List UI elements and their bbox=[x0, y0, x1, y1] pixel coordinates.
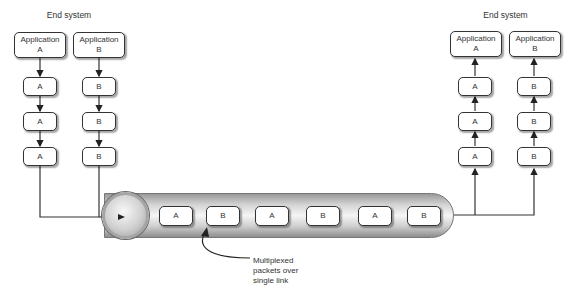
multiplexed-annotation: Multiplexed packets over single link bbox=[253, 256, 298, 286]
annotation-line-2: packets over bbox=[253, 266, 298, 276]
annotation-line-3: single link bbox=[253, 276, 298, 286]
annotation-arrow bbox=[0, 0, 572, 294]
annotation-line-1: Multiplexed bbox=[253, 256, 298, 266]
